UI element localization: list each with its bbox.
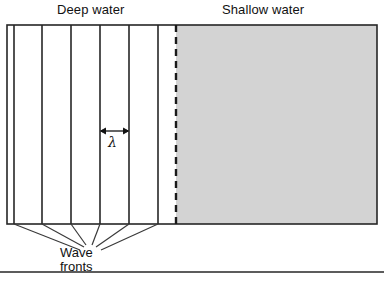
shallow-water-region <box>176 25 377 224</box>
leader-line <box>92 224 100 245</box>
leader-line <box>71 224 86 245</box>
diagram-canvas <box>0 0 384 284</box>
wave-refraction-diagram: Deep water Shallow water λ Wave fronts <box>0 0 384 284</box>
deep-water-label: Deep water <box>57 2 124 17</box>
wave-fronts-label-line2: fronts <box>60 260 93 274</box>
deep-water-region <box>7 25 176 224</box>
wave-fronts-label: Wave fronts <box>60 246 93 274</box>
leader-line <box>96 224 129 247</box>
wavelength-symbol-label: λ <box>108 134 117 150</box>
wave-fronts-label-line1: Wave <box>60 246 93 260</box>
shallow-water-label: Shallow water <box>222 2 304 17</box>
